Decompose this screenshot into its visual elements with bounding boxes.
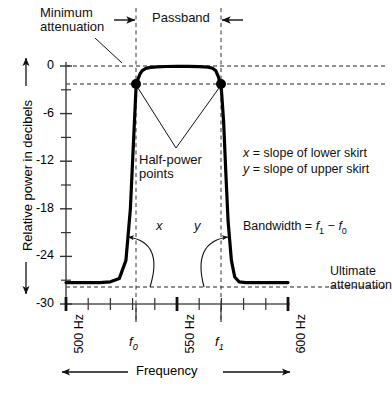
bandwidth-prefix: Bandwidth = (243, 219, 316, 233)
half-power-line1: Half-power (139, 152, 202, 167)
angle-y-label: y (194, 218, 201, 233)
slope-angle-x (128, 237, 154, 287)
f1-subscript: 1 (319, 226, 324, 236)
x-tick-label: 600 Hz (294, 314, 308, 354)
minimum-attenuation-line1: Minimum (40, 5, 93, 20)
minimum-attenuation-leader (95, 38, 122, 63)
f0-sub-glyph: 0 (133, 342, 138, 352)
ultimate-attenuation-label: Ultimate attenuation (330, 264, 392, 292)
y-tick-label: -24 (20, 248, 54, 262)
slope-angle-y (201, 237, 228, 287)
half-power-point-lower (131, 79, 141, 89)
y-tick-label: -30 (20, 296, 54, 310)
x-tick-label: 500 Hz (72, 314, 86, 354)
half-power-leader (138, 88, 219, 148)
f0-label: f0 (129, 334, 138, 352)
ultimate-line2: attenuation (330, 278, 392, 292)
y-tick-label: 0 (20, 58, 54, 72)
y-tick-label: -18 (20, 201, 54, 215)
f1-sub-glyph: 1 (219, 342, 224, 352)
y-slope-legend: y = slope of upper skirt (243, 162, 369, 176)
half-power-point-upper (216, 79, 226, 89)
y-slope-text: = slope of upper skirt (249, 162, 369, 176)
bandwidth-formula: Bandwidth = f1 − f0 (243, 219, 347, 236)
minimum-attenuation-line2: attenuation (40, 19, 104, 34)
passband-label: Passband (152, 10, 210, 25)
f0-subscript: 0 (342, 226, 347, 236)
ultimate-line1: Ultimate (330, 264, 376, 278)
x-slope-legend: x = slope of lower skirt (243, 146, 367, 160)
f1-label: f1 (215, 334, 224, 352)
x-axis-title: Frequency (136, 363, 197, 378)
x-slope-text: = slope of lower skirt (249, 146, 367, 160)
x-tick-label: 550 Hz (183, 314, 197, 354)
half-power-points-label: Half-power points (139, 153, 202, 181)
y-tick-label: -6 (20, 106, 54, 120)
minimum-attenuation-label: Minimum attenuation (40, 6, 104, 34)
y-tick-label: -12 (20, 153, 54, 167)
half-power-line2: points (139, 166, 174, 181)
angle-x-label: x (156, 218, 163, 233)
